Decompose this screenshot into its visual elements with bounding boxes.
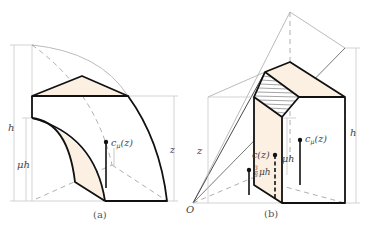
c-mu-dot [104, 140, 108, 144]
label-z: z [169, 145, 175, 155]
hidden-floor-1 [193, 178, 252, 203]
label-origin: O [186, 204, 194, 215]
label-frac-mu-h: μh [259, 167, 271, 177]
label-frac-num: 3 [254, 164, 258, 171]
panel-b: O z h μh cμ(z) c(z) 3 8 μh (b) [186, 12, 360, 219]
cone-top-edge [290, 12, 345, 48]
caption-a: (a) [93, 209, 107, 220]
three-eighths-dot [247, 168, 251, 172]
label-c-z: c(z) [252, 149, 270, 160]
label-z-b: z [196, 145, 203, 156]
label-c-mu-b: cμ(z) [305, 133, 327, 146]
label-mu-h: μh [17, 159, 30, 170]
c-mu-dot-b [298, 138, 302, 142]
inner-curved-face [32, 118, 105, 201]
hidden-diag-2 [112, 165, 167, 201]
label-h-b: h [350, 127, 356, 138]
panel-a: h μh z cμ(z) (a) [8, 45, 178, 220]
label-mu-h-b: μh [282, 153, 294, 164]
caption-b: (b) [264, 208, 278, 219]
top-face [32, 76, 128, 96]
label-frac-den: 8 [254, 171, 258, 178]
label-h: h [8, 122, 14, 133]
figure: h μh z cμ(z) (a) [0, 0, 370, 231]
c-z-dot [273, 153, 277, 157]
